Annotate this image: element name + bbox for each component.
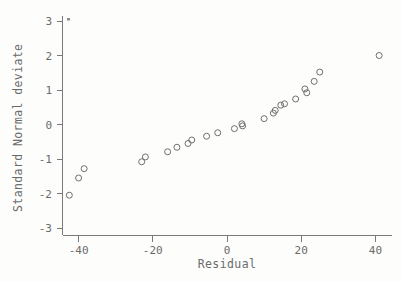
y-tick-label: -1 <box>39 153 52 166</box>
data-point <box>76 175 82 181</box>
y-axis-tick-labels: -3-2-10123 <box>39 15 52 235</box>
y-tick-label: 3 <box>45 15 52 28</box>
data-point <box>81 166 87 172</box>
x-axis-ticks <box>79 236 376 242</box>
scatter-series <box>66 53 382 199</box>
stray-mark <box>67 18 70 21</box>
x-tick-label: 0 <box>224 244 231 257</box>
x-axis-tick-labels: -40-2002040 <box>69 244 382 257</box>
data-point <box>282 101 288 107</box>
y-tick-label: 0 <box>45 119 52 132</box>
data-point <box>165 149 171 155</box>
y-tick-label: 2 <box>45 50 52 63</box>
y-tick-label: 1 <box>45 84 52 97</box>
data-point <box>185 140 191 146</box>
y-tick-label: -2 <box>39 188 52 201</box>
data-point <box>278 102 284 108</box>
y-axis-ticks <box>57 21 63 228</box>
data-point <box>66 192 72 198</box>
x-tick-label: 20 <box>295 244 308 257</box>
x-tick-label: 40 <box>369 244 382 257</box>
x-tick-label: -20 <box>143 244 163 257</box>
y-tick-label: -3 <box>39 222 52 235</box>
data-point <box>142 154 148 160</box>
data-point <box>376 53 382 59</box>
x-axis-title: Residual <box>198 257 257 271</box>
data-point <box>240 123 246 129</box>
data-point <box>311 78 317 84</box>
data-point <box>204 133 210 139</box>
data-point <box>215 130 221 136</box>
normal-probability-plot-figure: -3-2-10123 -40-2002040 Residual Standard… <box>0 0 402 282</box>
data-point <box>293 96 299 102</box>
data-point <box>231 126 237 132</box>
data-point <box>261 116 267 122</box>
x-tick-label: -40 <box>69 244 89 257</box>
data-point <box>189 137 195 143</box>
plot-canvas: -3-2-10123 -40-2002040 Residual Standard… <box>0 0 402 282</box>
data-point <box>317 69 323 75</box>
data-point <box>174 144 180 150</box>
y-axis-title: Standard Normal deviate <box>11 44 25 212</box>
